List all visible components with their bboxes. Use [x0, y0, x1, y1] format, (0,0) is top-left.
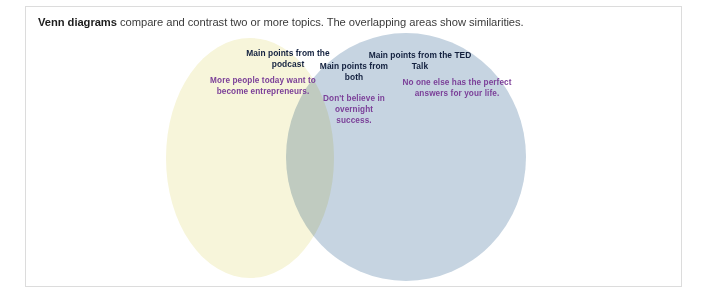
venn-label-left-body: More people today want to become entrepr… — [204, 75, 322, 97]
venn-label-right-heading: Main points from the TED Talk — [368, 50, 472, 71]
content-card: Venn diagrams compare and contrast two o… — [25, 6, 682, 287]
page-root: Venn diagrams compare and contrast two o… — [0, 0, 704, 301]
venn-label-right-body: No one else has the perfect answers for … — [398, 77, 516, 99]
venn-label-overlap-body: Don't believe in overnight success. — [318, 93, 390, 127]
venn-diagram: Main points from the podcast More people… — [26, 27, 683, 287]
